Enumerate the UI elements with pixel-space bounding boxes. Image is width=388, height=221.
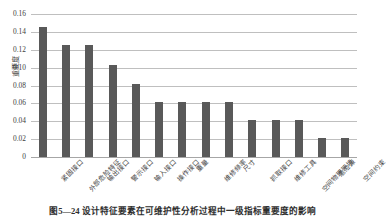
bar[interactable] <box>272 120 280 157</box>
y-axis-tick-labels: 0.160.140.120.100.080.060.040.020 <box>0 0 28 200</box>
bar-series <box>31 14 357 157</box>
y-axis-tick-label: 0.16 <box>0 10 26 17</box>
y-axis-tick-label: 0 <box>0 153 26 160</box>
bar[interactable] <box>39 27 47 157</box>
bar[interactable] <box>318 138 326 157</box>
x-axis-tick-label: 抓取接口 <box>269 158 294 183</box>
bar[interactable] <box>155 102 163 157</box>
y-axis-tick-label: 0.10 <box>0 64 26 71</box>
bar[interactable] <box>178 102 186 157</box>
y-axis-tick-label: 0.04 <box>0 117 26 124</box>
bar-chart: 重要度 0.160.140.120.100.080.060.040.020 紧固… <box>0 0 365 200</box>
x-axis-tick-label: 警示接口 <box>130 158 155 183</box>
bar[interactable] <box>202 102 210 157</box>
bar[interactable] <box>62 45 70 157</box>
y-axis-tick-label: 0.02 <box>0 135 26 142</box>
bar[interactable] <box>225 102 233 157</box>
bar[interactable] <box>85 45 93 157</box>
figure-caption: 图5—24 设计特征要素在可维护性分析过程中一级指标重要度的影响 <box>0 206 365 217</box>
bar[interactable] <box>248 120 256 157</box>
x-axis-tick-label: 空间约束 <box>363 158 388 183</box>
x-axis-tick-label: 维修工具 <box>293 158 318 183</box>
x-axis-tick-label: 输入接口 <box>153 158 178 183</box>
y-axis-tick-label: 0.12 <box>0 46 26 53</box>
bar[interactable] <box>295 120 303 157</box>
bar[interactable] <box>109 65 117 157</box>
x-axis-tick-label: 危险源 <box>337 158 357 178</box>
x-axis-tick-labels: 紧固接口外部危险特征输出接口警示接口输入接口操作接口重量维修频率尺寸抓取接口维修… <box>31 158 357 203</box>
y-axis-tick-label: 0.14 <box>0 28 26 35</box>
bar[interactable] <box>341 138 349 157</box>
y-axis-tick-label: 0.06 <box>0 99 26 106</box>
bar[interactable] <box>132 84 140 157</box>
x-axis-tick-label: 紧固接口 <box>60 158 85 183</box>
y-axis-tick-label: 0.08 <box>0 82 26 89</box>
